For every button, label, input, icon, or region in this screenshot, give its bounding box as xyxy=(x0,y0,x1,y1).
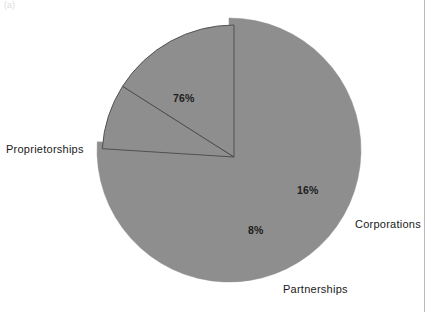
value-label-corporations: 16% xyxy=(297,184,318,196)
figure-canvas: (a) 76% 16% 8% Proprietorships Corporati… xyxy=(0,0,437,312)
category-label-partnerships: Partnerships xyxy=(283,283,348,295)
value-label-proprietorships: 76% xyxy=(173,92,194,104)
category-label-proprietorships: Proprietorships xyxy=(6,143,84,155)
exploded-wedge-group xyxy=(102,25,234,157)
value-label-partnerships: 8% xyxy=(248,224,263,236)
category-label-corporations: Corporations xyxy=(355,218,421,230)
pie-chart xyxy=(0,0,437,312)
page-margin-rule xyxy=(424,0,425,312)
